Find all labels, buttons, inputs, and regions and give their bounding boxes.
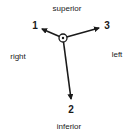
origin-circle-icon bbox=[59, 34, 67, 42]
axis-label-2: 2 bbox=[68, 104, 74, 115]
axis-label-3: 3 bbox=[104, 20, 110, 31]
label-right: right bbox=[10, 52, 26, 61]
label-left: left bbox=[112, 50, 123, 59]
axis-label-1: 1 bbox=[32, 20, 38, 31]
label-inferior: inferior bbox=[57, 122, 81, 131]
vector-arrows bbox=[0, 0, 134, 135]
label-superior: superior bbox=[53, 4, 82, 13]
axis-diagram: superior inferior right left 1 2 3 bbox=[0, 0, 134, 135]
arrow-3-icon bbox=[63, 28, 99, 38]
arrow-2-icon bbox=[63, 38, 71, 99]
